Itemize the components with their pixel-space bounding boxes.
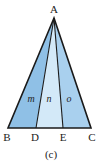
- region-label-n: n: [47, 93, 52, 104]
- vertex-label-b: B: [3, 131, 10, 143]
- vertex-label-e: E: [60, 131, 67, 143]
- vertex-label-a: A: [50, 3, 58, 15]
- triangle-diagram: A B D E C m n o (c): [0, 0, 102, 167]
- region-label-o: o: [67, 93, 72, 104]
- region-label-m: m: [27, 93, 34, 104]
- figure-caption: (c): [45, 148, 58, 161]
- vertex-label-d: D: [31, 131, 39, 143]
- vertex-label-c: C: [88, 131, 95, 143]
